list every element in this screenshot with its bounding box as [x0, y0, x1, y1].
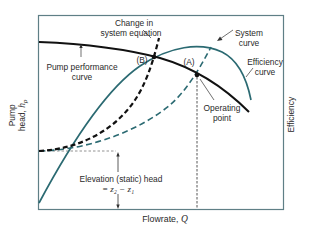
point-b-label: (B)	[134, 56, 150, 66]
y-axis-left-label-var: h	[16, 103, 26, 108]
y-axis-left-label-sub: p	[22, 100, 28, 103]
system-label-arrowhead	[217, 37, 223, 42]
point-b-marker	[152, 55, 157, 60]
x-axis-label-var: Q	[181, 214, 188, 224]
elevation-head-label-line2: = z₂ − z₁	[62, 185, 174, 195]
pump-performance-label: Pump performance curve	[40, 63, 124, 82]
system-curve-label-line2: curve	[229, 39, 269, 49]
operating-point-a-marker	[195, 73, 200, 78]
pump-performance-label-line2: curve	[40, 73, 124, 83]
efficiency-curve-label: Efficiency curve	[242, 58, 288, 77]
operating-point-label: Operating point	[197, 104, 247, 123]
y-axis-left-label-line2: head, hp	[17, 90, 30, 140]
y-axis-right-label: Efficiency	[287, 95, 297, 135]
elevation-head-label: Elevation (static) head = z₂ − z₁	[68, 175, 174, 194]
system-curve-label: System curve	[229, 29, 269, 48]
elevation-arrowhead-down	[116, 205, 119, 210]
elevation-arrowhead-up	[116, 152, 119, 157]
x-axis-label: Flowrate, Q	[132, 215, 198, 225]
y-axis-left-label: Pump head, hp	[8, 90, 31, 140]
y-axis-left-label-text: head,	[16, 108, 26, 131]
x-axis-label-text: Flowrate,	[142, 214, 181, 224]
change-in-system-label-line2: system equation	[88, 29, 174, 39]
point-a-label: (A)	[181, 58, 197, 68]
change-in-system-label: Change in system equation	[94, 19, 174, 38]
operating-point-label-line2: point	[197, 114, 247, 124]
efficiency-curve-label-line2: curve	[242, 68, 288, 78]
